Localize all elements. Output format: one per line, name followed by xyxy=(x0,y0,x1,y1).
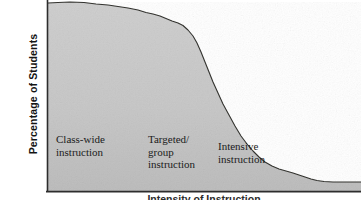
zone-label-targeted-group-instruction: Targeted/ group instruction xyxy=(148,133,195,171)
zone-label-intensive-instruction: Intensive instruction xyxy=(218,140,265,165)
y-axis-title: Percentage of Students xyxy=(27,14,39,174)
distribution-area-fill xyxy=(48,2,361,192)
zone-label-class-wide-instruction: Class-wide instruction xyxy=(56,133,105,158)
chart-figure: Percentage of Students Intensity of Inst… xyxy=(0,0,361,200)
x-axis-title: Intensity of Instruction xyxy=(47,193,361,200)
